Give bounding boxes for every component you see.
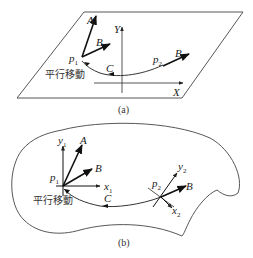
label-x2: x2 bbox=[171, 204, 181, 219]
label-p1: p1 bbox=[68, 52, 79, 67]
vector-b2-b bbox=[161, 186, 186, 197]
label-b1-b: B bbox=[95, 162, 102, 174]
label-p2-b: p2 bbox=[151, 177, 162, 192]
parallel-transport-label-b: 平行移動 bbox=[33, 194, 73, 206]
label-b1: B bbox=[96, 36, 103, 48]
parallel-transport-diagram: A B B C Y X p1 p2 平行移動 (a) y1 A B x1 bbox=[0, 0, 253, 258]
caption-a: (a) bbox=[118, 104, 129, 116]
flat-plane bbox=[17, 12, 243, 98]
label-y: Y bbox=[114, 23, 122, 35]
label-x: X bbox=[172, 86, 181, 98]
curved-surface bbox=[12, 123, 240, 236]
figure-a: A B B C Y X p1 p2 平行移動 (a) bbox=[17, 12, 243, 116]
x2-axis bbox=[161, 197, 172, 208]
label-a-b: A bbox=[79, 134, 87, 146]
curve-c bbox=[82, 61, 163, 76]
label-a: A bbox=[86, 14, 94, 26]
figure-b: y1 A B x1 p1 平行移動 C y2 p2 B x2 (b) bbox=[12, 123, 240, 249]
label-p2: p2 bbox=[152, 53, 163, 68]
label-p1-b: p1 bbox=[49, 171, 60, 186]
label-c: C bbox=[106, 62, 114, 74]
label-c-b: C bbox=[104, 192, 112, 204]
label-b2-b: B bbox=[186, 180, 193, 192]
parallel-transport-label-a: 平行移動 bbox=[45, 68, 85, 80]
caption-b: (b) bbox=[118, 237, 130, 249]
label-b2: B bbox=[175, 47, 182, 59]
label-y2: y2 bbox=[177, 160, 187, 175]
curve-c-b bbox=[64, 189, 161, 207]
curve-arrow-b2 bbox=[102, 204, 108, 208]
label-y1: y1 bbox=[57, 134, 67, 149]
